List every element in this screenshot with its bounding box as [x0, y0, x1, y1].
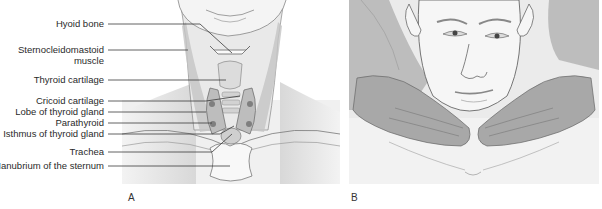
label-isthmus: Isthmus of thyroid gland: [3, 129, 104, 139]
label-cricoid-cartilage: Cricoid cartilage: [36, 96, 104, 106]
panel-b-illustration: [349, 0, 599, 184]
label-lobe-of-thyroid: Lobe of thyroid gland: [15, 107, 104, 117]
label-thyroid-cartilage: Thyroid cartilage: [34, 75, 104, 85]
neck-anatomy-drawing: [118, 0, 344, 185]
label-manubrium: Manubrium of the sternum: [0, 161, 104, 171]
label-sternocleidomastoid: Sternocleidomastoid: [18, 45, 104, 55]
panel-b-letter: B: [351, 192, 358, 203]
label-sternocleidomastoid-line2: muscle: [74, 56, 104, 66]
label-parathyroid: Parathyroid: [55, 118, 104, 128]
label-trachea: Trachea: [70, 147, 105, 157]
panel-a-letter: A: [128, 192, 135, 203]
label-hyoid-bone: Hyoid bone: [56, 19, 104, 29]
panel-a-illustration: [118, 0, 344, 185]
thyroid-palpation-drawing: [349, 0, 599, 184]
